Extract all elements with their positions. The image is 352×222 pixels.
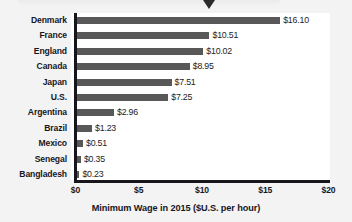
bar-row: $0.51 (77, 138, 330, 149)
category-label: Senegal (0, 154, 71, 165)
bar-row: $2.96 (77, 107, 330, 118)
bar-value-label: $7.25 (168, 92, 192, 103)
bar-row: $7.51 (77, 77, 330, 88)
scan-banner-artifact (18, 0, 280, 6)
bar (77, 94, 169, 101)
bar-row: $7.25 (77, 92, 330, 103)
x-tick-label: $20 (321, 185, 335, 195)
category-axis: DenmarkFranceEnglandCanadaJapanU.S.Argen… (0, 15, 71, 180)
bar-row: $1.23 (77, 123, 330, 134)
category-label: U.S. (0, 92, 71, 103)
bar (77, 109, 114, 116)
category-label: England (0, 46, 71, 57)
category-label: Denmark (0, 15, 71, 26)
bar-value-label: $0.51 (83, 138, 107, 149)
bar-value-label: $10.02 (203, 46, 232, 57)
bar (77, 125, 93, 132)
bar-value-label: $7.51 (172, 77, 196, 88)
category-label: Canada (0, 61, 71, 72)
category-label: Mexico (0, 138, 71, 149)
bar-row: $10.02 (77, 46, 330, 57)
bar (77, 32, 210, 39)
bar-value-label: $8.95 (190, 61, 214, 72)
bar-row: $10.51 (77, 30, 330, 41)
x-tick-label: $5 (134, 185, 143, 195)
bar (77, 48, 204, 55)
bar-row: $8.95 (77, 61, 330, 72)
bar-series: $16.10$10.51$10.02$8.95$7.51$7.25$2.96$1… (77, 15, 330, 180)
bar-value-label: $0.23 (79, 169, 103, 180)
category-label: Japan (0, 77, 71, 88)
category-label: France (0, 30, 71, 41)
x-tick-label: $15 (258, 185, 272, 195)
bar-value-label: $0.35 (81, 154, 105, 165)
bar (77, 63, 190, 70)
x-tick-label: $10 (195, 185, 209, 195)
bar-value-label: $10.51 (209, 30, 238, 41)
category-label: Brazil (0, 123, 71, 134)
bar (77, 17, 281, 24)
bar-value-label: $1.23 (92, 123, 116, 134)
bar-value-label: $16.10 (280, 15, 309, 26)
x-axis-title: Minimum Wage in 2015 ($U.S. per hour) (0, 203, 352, 213)
category-label: Bangladesh (0, 169, 71, 180)
x-tick-label: $0 (71, 185, 80, 195)
bar-chart: DenmarkFranceEnglandCanadaJapanU.S.Argen… (0, 13, 352, 222)
bar-row: $0.35 (77, 154, 330, 165)
x-axis-line (74, 180, 330, 183)
x-axis-ticks: $0$5$10$15$20 (0, 185, 352, 199)
bar-value-label: $2.96 (114, 107, 138, 118)
bar (77, 79, 172, 86)
category-label: Argentina (0, 107, 71, 118)
triangle-down-pointer-icon (203, 0, 215, 9)
bar-row: $16.10 (77, 15, 330, 26)
bar-row: $0.23 (77, 169, 330, 180)
